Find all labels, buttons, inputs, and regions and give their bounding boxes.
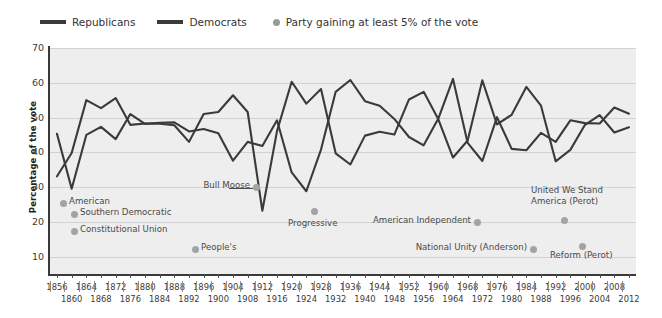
republicans-line-swatch-icon — [40, 20, 66, 24]
y-tick-label-40: 40 — [20, 146, 44, 157]
x-tick-mark-1980 — [512, 274, 513, 278]
y-tick-label-60: 60 — [20, 77, 44, 88]
x-label-separator — [108, 281, 109, 292]
legend-label-democrats: Democrats — [189, 16, 246, 28]
annotation-text-line: Reform (Perot) — [550, 250, 612, 261]
x-label-separator — [431, 281, 432, 292]
x-label-separator — [358, 281, 359, 292]
x-tick-mark-1892 — [189, 274, 190, 278]
x-tick-label-1988: 1988 — [526, 294, 556, 304]
legend-label-third-party: Party gaining at least 5% of the vote — [286, 16, 478, 28]
x-tick-label-1860: 1860 — [57, 294, 87, 304]
annotation-text-line: Southern Democratic — [80, 207, 171, 218]
annotation-southern-democratic: Southern Democratic — [80, 207, 171, 218]
annotation-national-unity-anderson: National Unity (Anderson) — [416, 242, 527, 253]
x-tick-label-2012: 2012 — [614, 294, 644, 304]
x-tick-label-1952: 1952 — [394, 282, 424, 292]
x-tick-label-1984: 1984 — [511, 282, 541, 292]
x-tick-label-1948: 1948 — [379, 294, 409, 304]
x-tick-mark-1924 — [306, 274, 307, 278]
x-label-separator — [94, 281, 95, 292]
x-tick-mark-1916 — [277, 274, 278, 278]
x-tick-label-1864: 1864 — [71, 282, 101, 292]
x-tick-mark-1908 — [248, 274, 249, 278]
x-tick-mark-1988 — [541, 274, 542, 278]
x-tick-mark-1888 — [174, 274, 175, 278]
x-axis-line — [48, 274, 636, 276]
x-label-separator — [299, 281, 300, 292]
x-tick-label-1972: 1972 — [467, 294, 497, 304]
x-tick-mark-1956 — [424, 274, 425, 278]
annotation-bull-moose: Bull Moose — [203, 180, 250, 191]
x-tick-label-1924: 1924 — [291, 294, 321, 304]
third-party-dot-icon — [273, 19, 280, 26]
annotation-text-line: People's — [201, 242, 236, 253]
third-party-marker-constitutional-union — [71, 228, 78, 235]
third-party-marker-national-unity-anderson — [530, 246, 537, 253]
x-label-separator — [416, 281, 417, 292]
x-tick-mark-1936 — [350, 274, 351, 278]
x-tick-label-1928: 1928 — [306, 282, 336, 292]
annotation-reform-perot: Reform (Perot) — [550, 250, 612, 261]
x-label-separator — [50, 281, 51, 292]
x-label-separator — [607, 281, 608, 292]
x-tick-label-1980: 1980 — [497, 294, 527, 304]
x-tick-label-1884: 1884 — [145, 294, 175, 304]
x-tick-mark-1932 — [336, 274, 337, 278]
y-tick-label-50: 50 — [20, 112, 44, 123]
x-tick-label-1920: 1920 — [277, 282, 307, 292]
series-lines — [50, 48, 636, 274]
x-tick-label-2000: 2000 — [570, 282, 600, 292]
annotation-text-line: American Independent — [373, 215, 471, 226]
x-label-separator — [563, 281, 564, 292]
x-tick-mark-2012 — [629, 274, 630, 278]
x-tick-mark-1864 — [86, 274, 87, 278]
x-label-separator — [446, 281, 447, 292]
x-label-separator — [152, 281, 153, 292]
legend-item-third-party: Party gaining at least 5% of the vote — [273, 16, 478, 28]
x-tick-mark-1992 — [556, 274, 557, 278]
x-label-separator — [123, 281, 124, 292]
annotation-american: American — [69, 196, 110, 207]
x-tick-label-1956: 1956 — [409, 294, 439, 304]
x-label-separator — [182, 281, 183, 292]
x-label-separator — [167, 281, 168, 292]
series-line-democrats — [57, 79, 629, 191]
y-tick-label-20: 20 — [20, 216, 44, 227]
x-tick-label-1916: 1916 — [262, 294, 292, 304]
x-label-separator — [622, 281, 623, 292]
annotation-peoples: People's — [201, 242, 236, 253]
x-tick-label-1912: 1912 — [247, 282, 277, 292]
x-tick-mark-1920 — [292, 274, 293, 278]
x-label-separator — [240, 281, 241, 292]
x-tick-mark-1984 — [526, 274, 527, 278]
third-party-marker-bull-moose — [253, 184, 260, 191]
third-party-marker-american-independent — [474, 219, 481, 226]
x-tick-mark-1948 — [394, 274, 395, 278]
x-label-separator — [592, 281, 593, 292]
x-label-separator — [519, 281, 520, 292]
x-tick-label-1904: 1904 — [218, 282, 248, 292]
x-label-separator — [343, 281, 344, 292]
x-tick-mark-1856 — [57, 274, 58, 278]
x-tick-mark-1868 — [101, 274, 102, 278]
x-label-separator — [402, 281, 403, 292]
x-tick-mark-1976 — [497, 274, 498, 278]
x-tick-mark-1880 — [145, 274, 146, 278]
x-tick-label-1868: 1868 — [86, 294, 116, 304]
x-label-separator — [79, 281, 80, 292]
x-tick-label-1964: 1964 — [438, 294, 468, 304]
x-tick-label-1996: 1996 — [555, 294, 585, 304]
x-tick-mark-1960 — [438, 274, 439, 278]
x-label-separator — [475, 281, 476, 292]
third-party-marker-peoples — [192, 246, 199, 253]
x-tick-mark-2000 — [585, 274, 586, 278]
x-tick-mark-1912 — [262, 274, 263, 278]
x-tick-label-2004: 2004 — [585, 294, 615, 304]
legend-label-republicans: Republicans — [72, 16, 135, 28]
x-tick-label-1976: 1976 — [482, 282, 512, 292]
third-party-marker-progressive — [311, 208, 318, 215]
x-tick-mark-1904 — [233, 274, 234, 278]
annotation-constitutional-union: Constitutional Union — [80, 224, 167, 235]
x-label-separator — [270, 281, 271, 292]
